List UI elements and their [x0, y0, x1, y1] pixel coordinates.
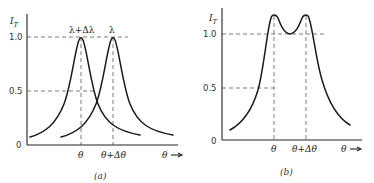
- panel-a: IT 1.0 0.5 0 λ+Δλ λ θ θ+Δθ θ (a): [9, 14, 182, 181]
- y-axis-label-b: IT: [208, 13, 218, 26]
- peak-label-lambda: λ: [109, 25, 115, 35]
- caption-a: (a): [94, 171, 107, 181]
- y-tick-0-a: 0: [16, 140, 21, 150]
- x-axis-label-a: θ: [162, 150, 168, 160]
- x-tick-theta-b: θ: [271, 144, 277, 154]
- x-tick-theta-dtheta-a: θ+Δθ: [101, 150, 126, 160]
- y-tick-05-b: 0.5: [203, 83, 217, 93]
- panel-b: IT 1.0 0.5 0 θ θ+Δθ θ (b): [203, 8, 362, 177]
- y-tick-1-a: 1.0: [9, 32, 23, 42]
- peak-label-lambda-plus-dlambda: λ+Δλ: [69, 25, 95, 35]
- x-tick-theta-a: θ: [78, 150, 84, 160]
- caption-b: (b): [280, 167, 293, 177]
- x-tick-theta-dtheta-b: θ+Δθ: [292, 144, 317, 154]
- curve-sum: [230, 15, 350, 130]
- y-tick-0-b: 0: [211, 136, 216, 146]
- y-tick-05-a: 0.5: [9, 86, 23, 96]
- y-tick-1-b: 1.0: [203, 29, 217, 39]
- y-axis-label-a: IT: [9, 16, 19, 29]
- curve-lambda: [61, 38, 173, 137]
- figure: IT 1.0 0.5 0 λ+Δλ λ θ θ+Δθ θ (a) IT 1.0 …: [0, 0, 374, 183]
- x-axis-label-b: θ: [341, 144, 347, 154]
